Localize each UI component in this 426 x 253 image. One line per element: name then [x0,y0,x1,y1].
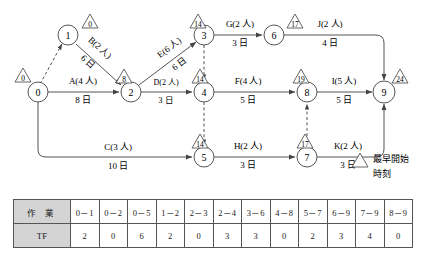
legend: 最早開始 時刻 [352,153,409,179]
node-4[interactable]: 4 [194,82,214,102]
activity-label-D-days: 3 日 [158,95,173,105]
activity-arrow-G: G(2 人) 3 日 [214,19,262,48]
activity-arrow-C: C(3 人) 10 日 [38,102,192,171]
est-value-node-8: 19 [297,75,305,84]
row-header-job: 作 業 [14,200,71,224]
col-header-3: 1－2 [156,200,185,224]
est-triangle-node-8: 19 [293,69,309,84]
tf-cell-1: 0 [99,224,128,248]
col-header-9: 6－9 [327,200,356,224]
activity-arrow-I: I(5 人) 5 日 [317,76,372,105]
est-value-node-6: 17 [291,20,299,29]
est-value-node-3: 14 [194,20,202,29]
node-label-4: 4 [202,87,207,98]
node-6[interactable]: 6 [264,25,284,45]
node-label-3: 3 [202,30,207,41]
tf-cell-2: 6 [128,224,157,248]
est-value-node-1: 0 [88,20,92,29]
dummy-arrow-0-1 [40,44,62,84]
table-row-header: 作 業 0－1 0－2 0－5 1－2 2－3 2－4 3－6 4－8 5－7 … [14,200,413,224]
col-header-7: 4－8 [270,200,299,224]
table-row-tf: TF 2 0 6 2 0 3 3 0 2 3 4 0 [14,224,413,248]
activity-label-H-days: 3 日 [240,160,256,170]
col-header-1: 0－2 [99,200,128,224]
tf-cell-5: 3 [213,224,242,248]
node-8[interactable]: 8 [297,82,317,102]
tf-cell-11: 0 [384,224,413,248]
col-header-0: 0－1 [71,200,100,224]
est-triangle-node-9: 24 [392,69,408,84]
est-triangle-node-4: 14 [192,69,208,84]
tf-table: 作 業 0－1 0－2 0－5 1－2 2－3 2－4 3－6 4－8 5－7 … [13,199,413,248]
activity-label-I-days: 5 日 [336,95,352,105]
activity-label-G-crew: G(2 人) [226,19,254,29]
activity-arrow-F: F(4 人) 5 日 [214,76,295,105]
network-diagram: A(4 人) 8 日 B(2 人) 6 日 C(3 人) 10 日 D(2 人)… [0,0,426,196]
legend-text-line1: 最早開始 [373,153,409,164]
node-9[interactable]: 9 [373,81,395,103]
node-label-5: 5 [202,152,207,163]
col-header-4: 2－3 [185,200,214,224]
activity-label-F-crew: F(4 人) [235,76,262,86]
activity-arrow-A: A(4 人) 8 日 [48,76,119,105]
node-label-2: 2 [129,87,134,98]
col-header-10: 7－9 [356,200,385,224]
node-label-0: 0 [36,87,41,98]
activity-label-H-crew: H(2 人) [234,141,262,151]
activity-label-D-crew: D(2 人) [153,78,178,87]
activity-arrow-D: D(2 人) 3 日 [141,78,192,105]
activity-arrow-H: H(2 人) 3 日 [214,141,295,170]
activity-label-J-days: 4 日 [322,38,338,48]
activity-label-J-crew: J(2 人) [317,19,342,29]
node-7[interactable]: 7 [297,147,317,167]
col-header-2: 0－5 [128,200,157,224]
activity-label-E-crew: E(6 人) [155,35,183,59]
node-5[interactable]: 5 [194,147,214,167]
est-triangle-node-6: 17 [287,14,303,29]
tf-cell-6: 3 [242,224,271,248]
est-triangle-node-2: 8 [116,69,132,84]
node-label-6: 6 [272,30,277,41]
tf-cell-0: 2 [71,224,100,248]
est-triangle-node-1: 0 [82,14,98,29]
col-header-6: 3－6 [242,200,271,224]
col-header-5: 2－4 [213,200,242,224]
tf-cell-9: 3 [327,224,356,248]
est-value-node-4: 14 [196,75,204,84]
node-0[interactable]: 0 [28,82,48,102]
activity-label-A-days: 8 日 [75,95,91,105]
node-1[interactable]: 1 [58,25,78,45]
node-label-9: 9 [382,87,387,98]
est-triangle-node-5: 14 [192,134,208,149]
node-label-8: 8 [305,87,310,98]
est-triangle-node-0: 0 [15,68,31,83]
node-label-7: 7 [305,152,310,163]
network-diagram-svg: A(4 人) 8 日 B(2 人) 6 日 C(3 人) 10 日 D(2 人)… [0,0,426,196]
activity-label-B-days: 6 日 [79,53,97,71]
est-value-node-7: 17 [301,140,309,149]
est-triangle-node-7: 17 [297,134,313,149]
legend-text-line2: 時刻 [373,168,391,179]
node-label-1: 1 [66,30,71,41]
tf-table-container: 作 業 0－1 0－2 0－5 1－2 2－3 2－4 3－6 4－8 5－7 … [13,199,413,248]
tf-cell-7: 0 [270,224,299,248]
activity-label-C-days: 10 日 [108,161,128,171]
activity-label-K-crew: K(2 人) [334,141,362,151]
col-header-11: 8－9 [384,200,413,224]
tf-cell-8: 2 [299,224,328,248]
est-value-node-5: 14 [196,140,204,149]
col-header-8: 5－7 [299,200,328,224]
est-value-node-9: 24 [396,75,404,84]
activity-label-A-crew: A(4 人) [69,76,97,86]
tf-cell-4: 0 [185,224,214,248]
est-triangle-node-3: 14 [190,14,206,29]
activity-label-F-days: 5 日 [240,95,256,105]
activity-label-E-days: 6 日 [170,55,189,72]
activity-label-I-crew: I(5 人) [332,76,357,86]
est-value-node-2: 8 [122,75,126,84]
activity-label-C-crew: C(3 人) [104,142,132,152]
est-value-node-0: 0 [21,74,25,83]
tf-cell-3: 2 [156,224,185,248]
node-2[interactable]: 2 [121,82,141,102]
activity-label-G-days: 3 日 [232,38,248,48]
